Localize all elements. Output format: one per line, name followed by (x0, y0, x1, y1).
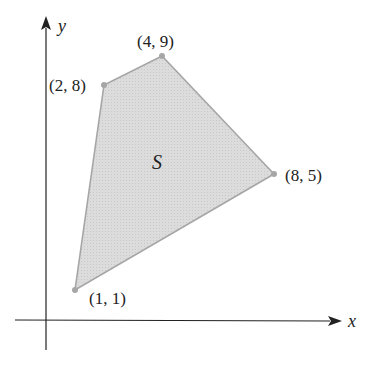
y-axis-label: y (56, 16, 66, 36)
vertex-label-4-9: (4, 9) (137, 32, 174, 51)
x-axis-arrow-icon (328, 316, 342, 326)
vertex-dot-2-8 (101, 82, 107, 88)
vertex-label-2-8: (2, 8) (49, 76, 86, 95)
vertex-label-1-1: (1, 1) (89, 289, 126, 308)
vertex-label-8-5: (8, 5) (285, 166, 322, 185)
region-label: S (152, 151, 162, 173)
diagram-canvas: x y (1, 1) (2, 8) (4, 9) (8, 5) S (0, 0, 373, 370)
vertex-dot-8-5 (271, 171, 277, 177)
y-axis-arrow-icon (41, 16, 51, 30)
x-axis-label: x (347, 311, 356, 331)
region-s (75, 56, 274, 290)
vertex-dot-1-1 (72, 287, 78, 293)
x-axis (15, 320, 330, 321)
vertex-dot-4-9 (159, 53, 165, 59)
